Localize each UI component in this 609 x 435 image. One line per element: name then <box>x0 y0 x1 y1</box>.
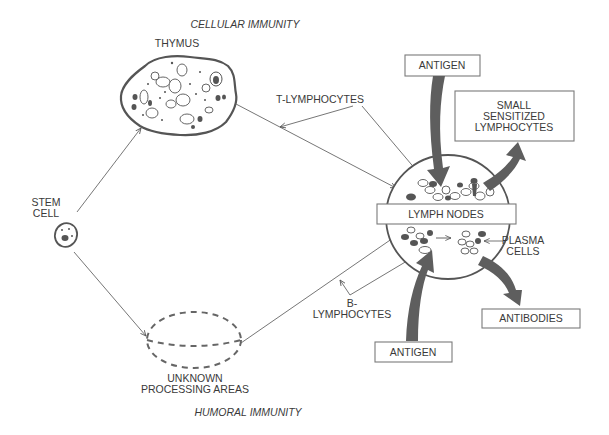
thymus-icon <box>121 56 236 135</box>
b-label-pointer-left <box>340 280 350 295</box>
thymus-label: THYMUS <box>155 37 199 49</box>
humoral-immunity-title: HUMORAL IMMUNITY <box>194 406 302 418</box>
stem-to-thymus-arrow <box>77 128 141 212</box>
small-sensitized-label-3: LYMPHOCYTES <box>475 121 554 133</box>
b-lymphocytes-label-2: LYMPHOCYTES <box>313 308 392 320</box>
antibodies-label: ANTIBODIES <box>499 312 563 324</box>
stem-cell-icon <box>52 220 81 250</box>
antigen-bottom-label: ANTIGEN <box>390 346 437 358</box>
plasma-cells-label-2: CELLS <box>506 245 539 257</box>
b-label-pointer-right <box>350 258 412 295</box>
small-sensitized-arrow <box>483 142 526 191</box>
immunity-diagram: CELLULAR IMMUNITY HUMORAL IMMUNITY THYMU… <box>0 0 609 435</box>
lymph-nodes-label: LYMPH NODES <box>408 208 484 220</box>
unknown-processing-areas-icon <box>147 312 241 368</box>
unknown-to-lymph-line <box>241 236 396 343</box>
antigen-top-arrow <box>427 76 450 187</box>
antigen-top-label: ANTIGEN <box>419 59 466 71</box>
t-lymphocytes-label: T-LYMPHOCYTES <box>276 93 364 105</box>
t-label-pointer-left <box>280 106 353 127</box>
antibodies-arrow <box>478 256 522 306</box>
unknown-areas-label-2: PROCESSING AREAS <box>141 383 249 395</box>
cellular-immunity-title: CELLULAR IMMUNITY <box>190 18 300 30</box>
stem-cell-label-2: CELL <box>33 207 59 219</box>
stem-to-unknown-arrow <box>74 252 146 336</box>
